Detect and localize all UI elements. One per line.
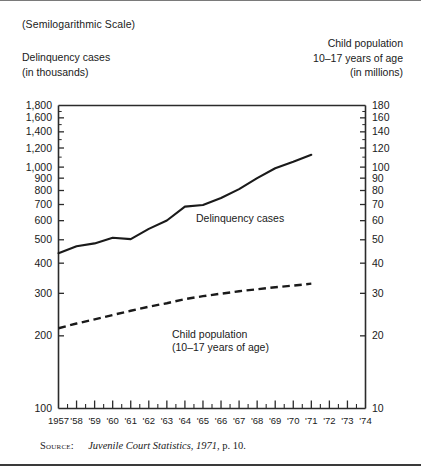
right-tick-label: 100 bbox=[372, 162, 390, 173]
right-tick-label: 140 bbox=[372, 126, 390, 137]
data-series bbox=[59, 155, 312, 328]
right-tick-label: 30 bbox=[372, 288, 384, 299]
right-tick-label: 40 bbox=[372, 258, 384, 269]
series-label-child-population-line1: Child population bbox=[172, 328, 269, 341]
left-tick-label: 900 bbox=[0, 173, 52, 184]
right-tick-label: 20 bbox=[372, 330, 384, 341]
left-axis-caption: Delinquency cases (in thousands) bbox=[22, 50, 110, 79]
axis-ticks bbox=[59, 111, 366, 408]
right-axis-caption: Child population 10–17 years of age (in … bbox=[313, 36, 403, 80]
source-label: Source: bbox=[40, 440, 74, 451]
right-tick-label: 50 bbox=[372, 234, 384, 245]
right-tick-label: 60 bbox=[372, 215, 384, 226]
left-tick-label: 500 bbox=[0, 234, 52, 245]
right-tick-label: 80 bbox=[372, 185, 384, 196]
series-label-delinquency-line1: Delinquency cases bbox=[196, 212, 284, 225]
series-label-child-population: Child population (10–17 years of age) bbox=[172, 328, 269, 354]
left-tick-label: 700 bbox=[0, 199, 52, 210]
right-tick-label: 180 bbox=[372, 100, 390, 111]
source-page: , p. 10. bbox=[217, 440, 246, 451]
source-line: Source: Juvenile Court Statistics, 1971,… bbox=[40, 440, 246, 451]
right-axis-caption-line2: 10–17 years of age bbox=[313, 51, 403, 66]
right-tick-label: 70 bbox=[372, 199, 384, 210]
right-axis-caption-line1: Child population bbox=[313, 36, 403, 51]
series-line-child-population bbox=[59, 284, 312, 329]
left-tick-label: 600 bbox=[0, 215, 52, 226]
left-axis-caption-line1: Delinquency cases bbox=[22, 50, 110, 65]
left-tick-label: 1,400 bbox=[0, 126, 52, 137]
right-tick-label: 120 bbox=[372, 143, 390, 154]
left-tick-label: 200 bbox=[0, 330, 52, 341]
left-tick-label: 1,200 bbox=[0, 143, 52, 154]
right-tick-label: 90 bbox=[372, 173, 384, 184]
left-tick-label: 100 bbox=[0, 403, 52, 414]
page-rule-top bbox=[0, 0, 421, 1]
series-line-delinquency bbox=[59, 155, 312, 253]
scale-note: (Semilogarithmic Scale) bbox=[22, 18, 135, 30]
left-tick-label: 800 bbox=[0, 185, 52, 196]
series-label-child-population-line2: (10–17 years of age) bbox=[172, 341, 269, 354]
right-tick-label: 10 bbox=[372, 403, 384, 414]
left-tick-label: 1,600 bbox=[0, 112, 52, 123]
right-axis-caption-line3: (in millions) bbox=[313, 65, 403, 80]
left-tick-label: 300 bbox=[0, 288, 52, 299]
right-tick-label: 160 bbox=[372, 112, 390, 123]
left-tick-label: 1,800 bbox=[0, 100, 52, 111]
x-tick-label: '74 bbox=[350, 415, 382, 426]
figure-delinquency-vs-child-population: (Semilogarithmic Scale) Delinquency case… bbox=[0, 0, 421, 473]
left-tick-label: 400 bbox=[0, 258, 52, 269]
page-rule-bottom bbox=[0, 464, 421, 466]
source-title: Juvenile Court Statistics, 1971 bbox=[88, 440, 217, 451]
plot-frame bbox=[59, 106, 366, 409]
series-label-delinquency: Delinquency cases bbox=[196, 212, 284, 225]
left-axis-caption-line2: (in thousands) bbox=[22, 65, 110, 80]
left-tick-label: 1,000 bbox=[0, 162, 52, 173]
